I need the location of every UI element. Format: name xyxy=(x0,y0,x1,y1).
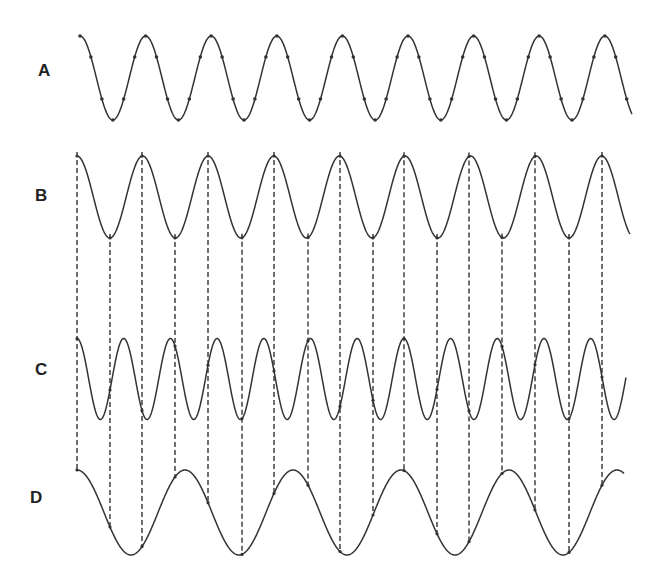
waveform-canvas xyxy=(0,0,655,586)
sample-point-marker xyxy=(559,97,563,101)
waveform-diagram: A B C D xyxy=(0,0,655,586)
sample-point-marker xyxy=(253,97,257,101)
sample-point-marker xyxy=(199,55,203,59)
sample-point-marker xyxy=(406,34,410,38)
wave-d xyxy=(77,470,624,555)
sample-point-marker xyxy=(603,34,607,38)
wave-a-markers xyxy=(78,34,628,122)
sample-point-marker xyxy=(166,97,170,101)
sample-point-marker xyxy=(395,55,399,59)
sample-point-marker xyxy=(592,55,596,59)
sample-point-marker xyxy=(220,55,224,59)
sample-point-marker xyxy=(483,55,487,59)
waveforms xyxy=(77,36,632,555)
sample-point-marker xyxy=(188,97,192,101)
sample-point-marker xyxy=(472,34,476,38)
sample-point-marker xyxy=(122,97,126,101)
sample-point-marker xyxy=(297,97,301,101)
sample-point-marker xyxy=(625,97,629,101)
sample-point-marker xyxy=(78,34,82,38)
sample-point-marker xyxy=(133,55,137,59)
wave-label-b: B xyxy=(35,186,47,206)
sample-point-marker xyxy=(155,55,159,59)
sample-point-marker xyxy=(428,97,432,101)
sample-point-marker xyxy=(286,55,290,59)
sample-point-marker xyxy=(537,34,541,38)
sample-point-marker xyxy=(89,55,93,59)
sample-point-marker xyxy=(144,34,148,38)
wave-label-d: D xyxy=(30,488,42,508)
sample-point-marker xyxy=(384,97,388,101)
sample-point-marker xyxy=(570,118,574,122)
sample-point-marker xyxy=(614,55,618,59)
sample-point-marker xyxy=(330,55,334,59)
sample-point-marker xyxy=(527,55,531,59)
sample-point-marker xyxy=(231,97,235,101)
sample-point-marker xyxy=(209,34,213,38)
sample-point-marker xyxy=(505,118,509,122)
sample-point-marker xyxy=(581,97,585,101)
sample-point-marker xyxy=(319,97,323,101)
wave-b xyxy=(77,156,630,238)
sample-point-marker xyxy=(516,97,520,101)
sample-point-marker xyxy=(264,55,268,59)
wave-a xyxy=(80,36,632,120)
wave-label-c: C xyxy=(35,360,47,380)
sample-point-marker xyxy=(352,55,356,59)
sample-point-marker xyxy=(417,55,421,59)
sample-point-marker xyxy=(177,118,181,122)
sample-point-marker xyxy=(100,97,104,101)
sample-point-marker xyxy=(275,34,279,38)
sample-point-marker xyxy=(308,118,312,122)
wave-label-a: A xyxy=(38,61,50,81)
sample-point-marker xyxy=(242,118,246,122)
wave-c xyxy=(77,339,626,420)
sample-point-marker xyxy=(548,55,552,59)
sample-point-marker xyxy=(363,97,367,101)
sample-point-marker xyxy=(111,118,115,122)
sample-point-marker xyxy=(461,55,465,59)
sample-point-marker xyxy=(439,118,443,122)
dashed-alignment-lines xyxy=(75,152,603,556)
sample-point-marker xyxy=(494,97,498,101)
sample-point-marker xyxy=(450,97,454,101)
sample-point-marker xyxy=(341,34,345,38)
sample-point-marker xyxy=(373,118,377,122)
